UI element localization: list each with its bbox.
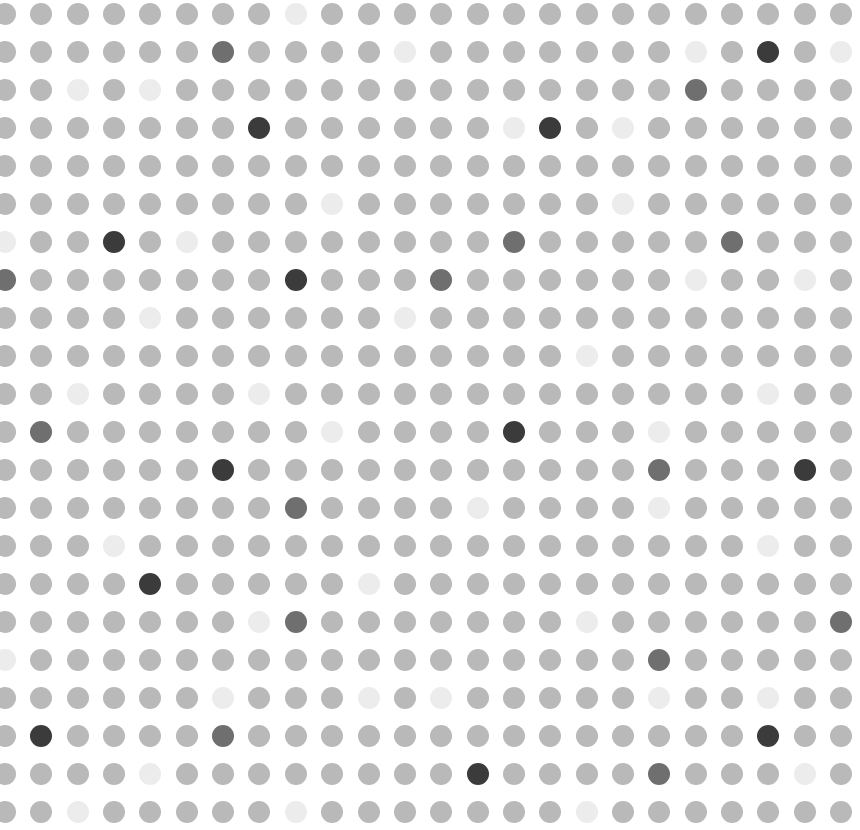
dot-normal <box>67 687 89 709</box>
dot-normal <box>321 269 343 291</box>
dot-normal <box>612 3 634 25</box>
dot-normal <box>0 535 16 557</box>
dot-normal <box>757 3 779 25</box>
dot-normal <box>794 535 816 557</box>
dot-normal <box>212 307 234 329</box>
dot-light <box>176 231 198 253</box>
dot-normal <box>430 41 452 63</box>
dot-light <box>612 193 634 215</box>
dot-normal <box>394 763 416 785</box>
dot-normal <box>0 459 16 481</box>
dot-normal <box>757 459 779 481</box>
dot-normal <box>176 117 198 139</box>
dot-normal <box>176 41 198 63</box>
dot-normal <box>467 459 489 481</box>
dot-normal <box>648 345 670 367</box>
dot-dark <box>757 41 779 63</box>
dot-normal <box>30 269 52 291</box>
dot-light <box>685 41 707 63</box>
dot-normal <box>103 41 125 63</box>
dot-normal <box>248 193 270 215</box>
dot-normal <box>248 3 270 25</box>
dot-normal <box>503 801 525 823</box>
dot-normal <box>503 611 525 633</box>
dot-normal <box>721 41 743 63</box>
dot-light <box>139 763 161 785</box>
dot-normal <box>67 725 89 747</box>
dot-normal <box>576 3 598 25</box>
dot-normal <box>721 725 743 747</box>
dot-normal <box>30 155 52 177</box>
dot-normal <box>358 269 380 291</box>
dot-normal <box>139 535 161 557</box>
dot-normal <box>576 535 598 557</box>
dot-normal <box>685 687 707 709</box>
dot-normal <box>285 725 307 747</box>
dot-normal <box>576 383 598 405</box>
dot-normal <box>612 41 634 63</box>
dot-normal <box>103 801 125 823</box>
dot-normal <box>430 231 452 253</box>
dot-normal <box>285 763 307 785</box>
dot-normal <box>721 307 743 329</box>
dot-normal <box>576 573 598 595</box>
dot-normal <box>248 763 270 785</box>
dot-normal <box>103 459 125 481</box>
dot-normal <box>0 573 16 595</box>
dot-normal <box>0 725 16 747</box>
dot-normal <box>830 307 852 329</box>
dot-normal <box>30 231 52 253</box>
dot-normal <box>721 269 743 291</box>
dot-normal <box>830 3 852 25</box>
dot-normal <box>285 459 307 481</box>
dot-normal <box>503 763 525 785</box>
dot-normal <box>321 117 343 139</box>
dot-medium <box>685 79 707 101</box>
dot-normal <box>648 231 670 253</box>
dot-normal <box>285 307 307 329</box>
dot-normal <box>648 801 670 823</box>
dot-normal <box>430 3 452 25</box>
dot-normal <box>321 155 343 177</box>
dot-normal <box>503 3 525 25</box>
dot-light <box>648 497 670 519</box>
dot-normal <box>467 269 489 291</box>
dot-normal <box>176 269 198 291</box>
dot-normal <box>394 269 416 291</box>
dot-normal <box>648 193 670 215</box>
dot-normal <box>394 117 416 139</box>
dot-normal <box>30 611 52 633</box>
dot-normal <box>103 155 125 177</box>
dot-normal <box>539 535 561 557</box>
dot-normal <box>103 3 125 25</box>
dot-normal <box>358 497 380 519</box>
dot-normal <box>67 41 89 63</box>
dot-normal <box>139 459 161 481</box>
dot-dark <box>139 573 161 595</box>
dot-normal <box>394 573 416 595</box>
dot-normal <box>612 535 634 557</box>
dot-normal <box>612 573 634 595</box>
dot-normal <box>503 155 525 177</box>
dot-normal <box>576 763 598 785</box>
dot-light <box>139 307 161 329</box>
dot-normal <box>721 345 743 367</box>
dot-normal <box>794 497 816 519</box>
dot-normal <box>248 573 270 595</box>
dot-light <box>394 307 416 329</box>
dot-normal <box>394 193 416 215</box>
dot-normal <box>757 421 779 443</box>
dot-normal <box>212 497 234 519</box>
dot-normal <box>721 459 743 481</box>
dot-normal <box>358 345 380 367</box>
dot-normal <box>794 611 816 633</box>
dot-normal <box>103 269 125 291</box>
dot-normal <box>794 79 816 101</box>
dot-normal <box>285 345 307 367</box>
dot-normal <box>685 345 707 367</box>
dot-normal <box>30 345 52 367</box>
dot-normal <box>539 155 561 177</box>
dot-normal <box>648 3 670 25</box>
dot-normal <box>721 79 743 101</box>
dot-normal <box>321 649 343 671</box>
